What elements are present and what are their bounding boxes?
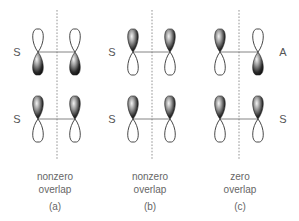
shaded-lobe bbox=[253, 96, 264, 119]
panel-a-row-2: S bbox=[13, 96, 80, 142]
open-lobe bbox=[215, 119, 226, 142]
symmetry-label: S bbox=[279, 113, 286, 125]
shaded-lobe bbox=[253, 52, 264, 75]
panel-c-row-2: S bbox=[215, 96, 287, 142]
shaded-lobe bbox=[33, 52, 44, 75]
panel-b-caption-line1: nonzero bbox=[132, 171, 169, 182]
panel-a: SS bbox=[13, 10, 80, 159]
panel-c-row-1: A bbox=[215, 29, 288, 75]
shaded-lobe bbox=[215, 29, 226, 52]
open-lobe bbox=[70, 119, 81, 142]
symmetry-label: S bbox=[108, 46, 115, 58]
panel-b-row-2: S bbox=[108, 96, 175, 142]
symmetry-label: S bbox=[108, 113, 115, 125]
open-lobe bbox=[33, 119, 44, 142]
open-lobe bbox=[128, 52, 139, 75]
panel-c-label: (c) bbox=[234, 201, 246, 212]
open-lobe bbox=[165, 119, 176, 142]
symmetry-label: A bbox=[279, 46, 287, 58]
shaded-lobe bbox=[70, 52, 81, 75]
panel-b-label: (b) bbox=[144, 201, 156, 212]
panels-layer: SSSSAS bbox=[13, 10, 287, 159]
shaded-lobe bbox=[128, 96, 139, 119]
panel-c: AS bbox=[215, 10, 288, 159]
captions-layer: nonzero overlap (a) nonzero overlap (b) … bbox=[37, 171, 257, 212]
shaded-lobe bbox=[33, 96, 44, 119]
shaded-lobe bbox=[128, 29, 139, 52]
symmetry-label: S bbox=[13, 113, 20, 125]
panel-b-caption-line2: overlap bbox=[134, 184, 167, 195]
open-lobe bbox=[215, 52, 226, 75]
panel-a-label: (a) bbox=[49, 201, 61, 212]
open-lobe bbox=[70, 29, 81, 52]
panel-a-caption-line2: overlap bbox=[39, 184, 72, 195]
shaded-lobe bbox=[70, 96, 81, 119]
panel-a-row-1: S bbox=[13, 29, 80, 75]
open-lobe bbox=[253, 29, 264, 52]
panel-b-row-1: S bbox=[108, 29, 175, 75]
open-lobe bbox=[253, 119, 264, 142]
shaded-lobe bbox=[165, 29, 176, 52]
panel-c-caption-line1: zero bbox=[230, 171, 250, 182]
open-lobe bbox=[128, 119, 139, 142]
shaded-lobe bbox=[165, 96, 176, 119]
panel-c-caption-line2: overlap bbox=[224, 184, 257, 195]
open-lobe bbox=[33, 29, 44, 52]
shaded-lobe bbox=[215, 96, 226, 119]
panel-b: SS bbox=[108, 10, 175, 159]
panel-a-caption-line1: nonzero bbox=[37, 171, 74, 182]
open-lobe bbox=[165, 52, 176, 75]
orbital-symmetry-diagram: SSSSAS nonzero overlap (a) nonzero overl… bbox=[0, 0, 299, 221]
symmetry-label: S bbox=[13, 46, 20, 58]
